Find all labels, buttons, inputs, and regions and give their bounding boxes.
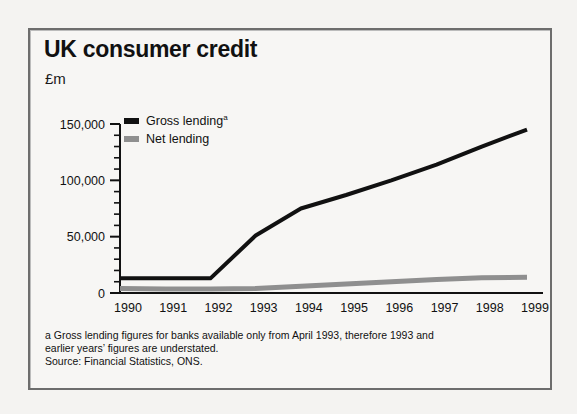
x-axis-group: 1990199119921993199419951996199719981999 (114, 293, 549, 315)
x-axis-tick-label: 1992 (205, 301, 233, 315)
y-axis-tick-label: 0 (98, 287, 105, 301)
chart-panel: UK consumer credit £m Gross lendinga Net… (28, 28, 552, 390)
page-root: UK consumer credit £m Gross lendinga Net… (0, 0, 577, 414)
x-axis-tick-label: 1997 (431, 301, 459, 315)
series-lines (120, 130, 527, 289)
y-axis-group: 050,000100,000150,000 (60, 118, 120, 301)
footnote-line-3: Source: Financial Statistics, ONS. (45, 355, 525, 368)
x-axis-tick-labels: 1990199119921993199419951996199719981999 (114, 301, 549, 315)
x-axis-tick-label: 1995 (340, 301, 368, 315)
y-axis-ticks (110, 124, 120, 293)
y-axis-tick-label: 150,000 (60, 118, 105, 132)
footnote-line-1: a Gross lending figures for banks availa… (45, 329, 525, 342)
y-axis-tick-label: 50,000 (67, 230, 105, 244)
y-axis-tick-label: 100,000 (60, 174, 105, 188)
x-axis-tick-label: 1999 (521, 301, 549, 315)
series-line-gross-lending (120, 130, 527, 279)
x-axis-tick-label: 1993 (250, 301, 278, 315)
y-axis-tick-labels: 050,000100,000150,000 (60, 118, 105, 301)
x-axis-tick-label: 1994 (295, 301, 323, 315)
chart-footnote: a Gross lending figures for banks availa… (45, 329, 525, 368)
x-axis-tick-label: 1991 (159, 301, 187, 315)
x-axis-tick-label: 1996 (385, 301, 413, 315)
x-axis-tick-label: 1990 (114, 301, 142, 315)
x-axis-tick-label: 1998 (476, 301, 504, 315)
footnote-line-2: earlier years’ figures are understated. (45, 342, 525, 355)
